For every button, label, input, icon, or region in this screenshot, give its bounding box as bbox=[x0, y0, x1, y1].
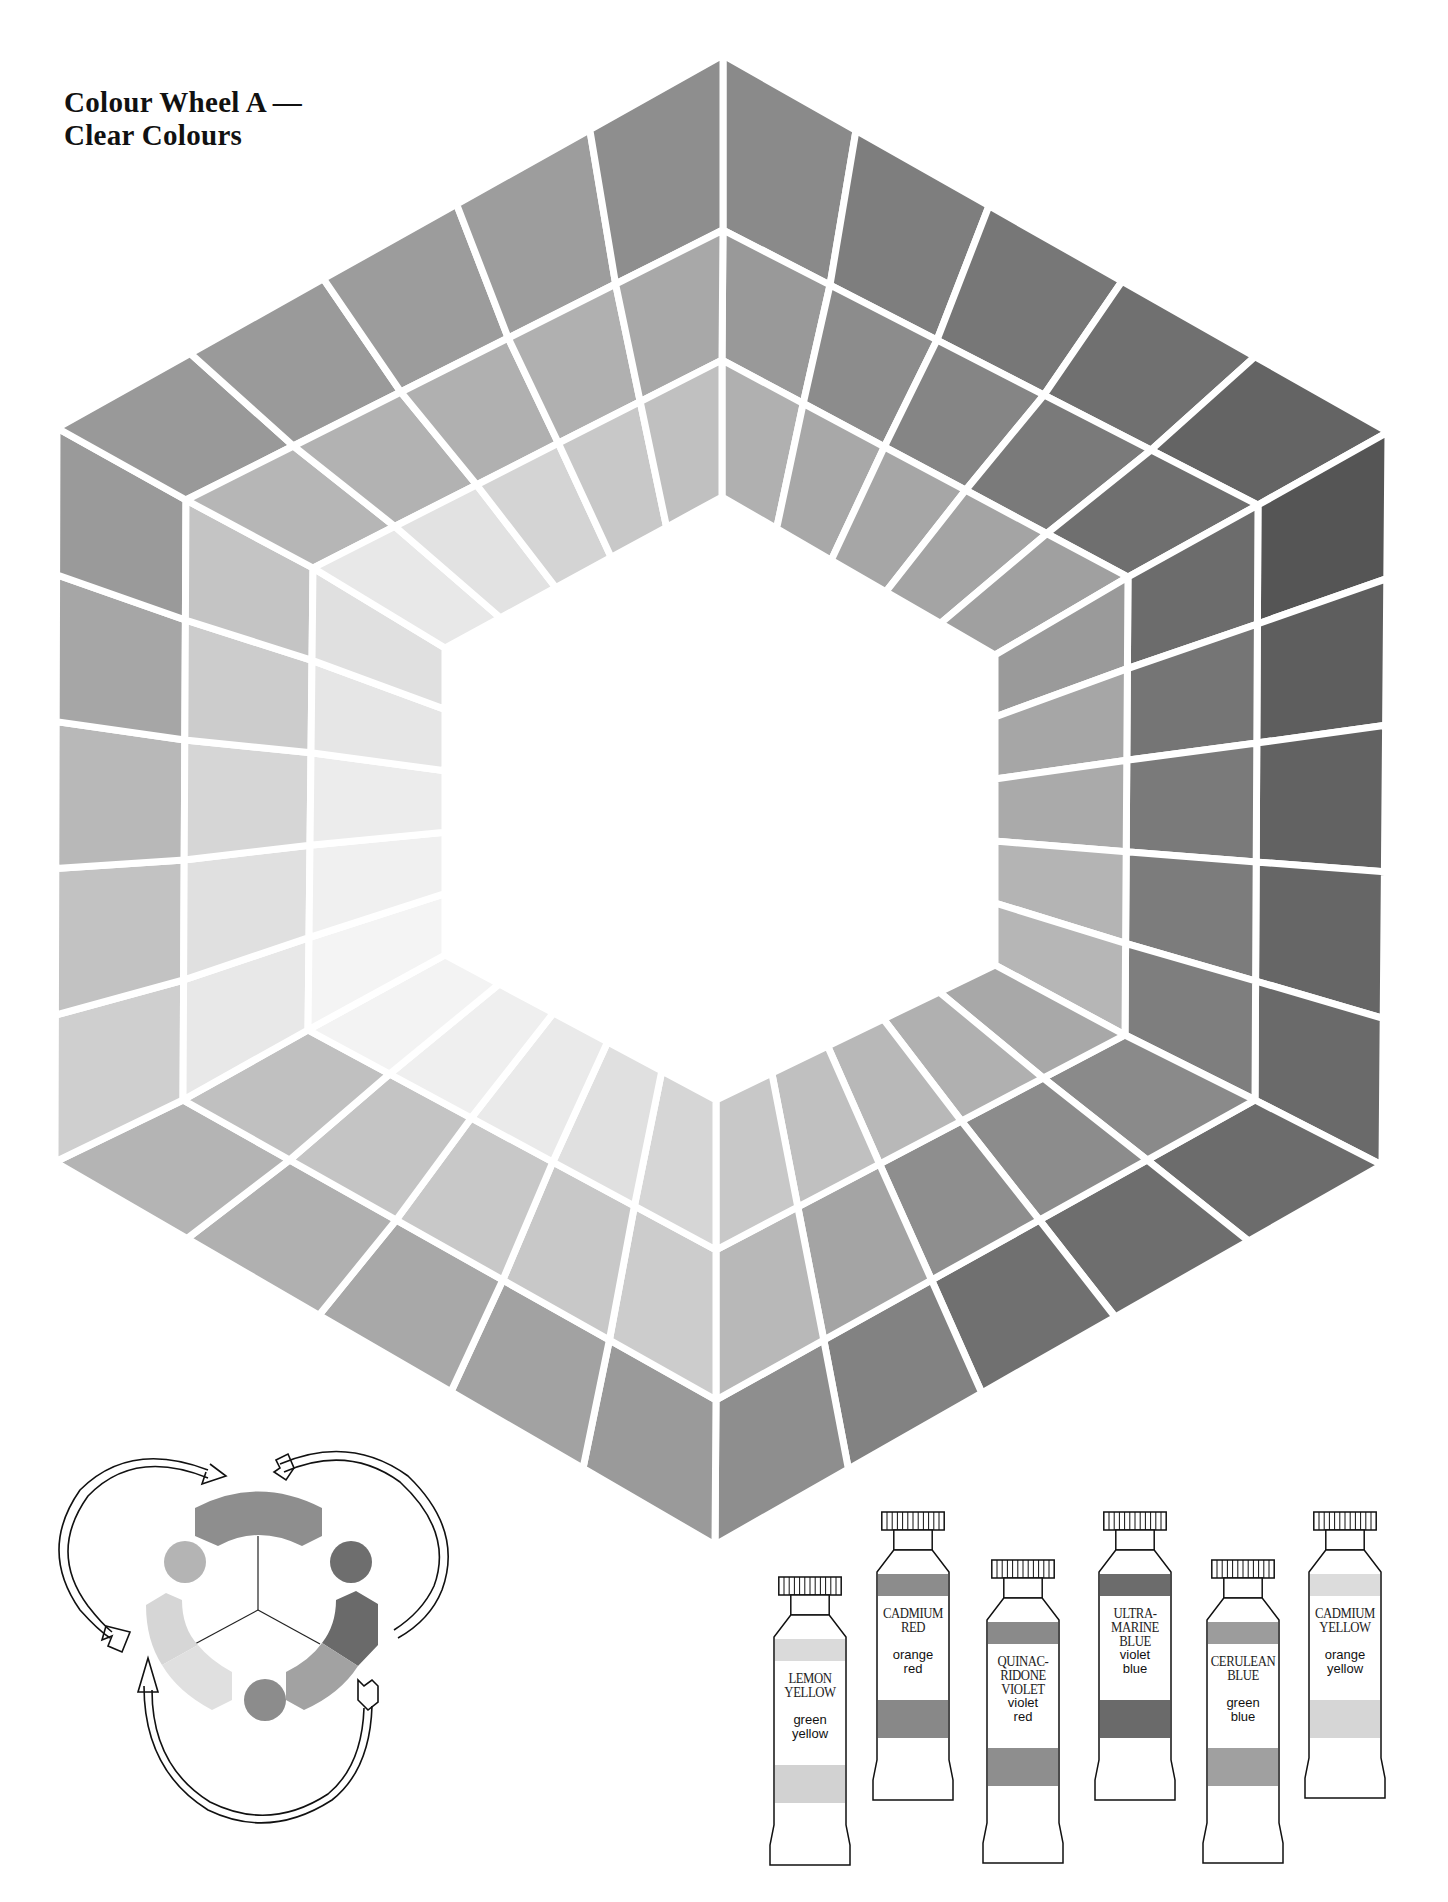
tube-colour-bias: violetblue bbox=[1095, 1648, 1175, 1676]
paint-tube: CERULEANBLUEgreenblue bbox=[1203, 1558, 1283, 1883]
tube-name: ULTRA-MARINEBLUE bbox=[1101, 1606, 1169, 1648]
tube-colour-bias: greenblue bbox=[1203, 1696, 1283, 1724]
tube-colour-bias: orangered bbox=[873, 1648, 953, 1676]
center-divider-lines bbox=[193, 1536, 320, 1645]
dot-bottom bbox=[244, 1679, 286, 1721]
tube-name: QUINAC-RIDONEVIOLET bbox=[989, 1654, 1057, 1696]
paint-tube: QUINAC-RIDONEVIOLETvioletred bbox=[983, 1558, 1063, 1883]
wheel-cell bbox=[56, 722, 185, 869]
paint-tube: CADMIUMREDorangered bbox=[873, 1510, 953, 1820]
tube-name: CADMIUMRED bbox=[879, 1606, 947, 1634]
wheel-cells bbox=[55, 55, 1388, 1545]
wheel-cell bbox=[184, 740, 311, 860]
wheel-cell bbox=[995, 760, 1127, 852]
colour-wheel-hexagon bbox=[0, 0, 1448, 1600]
wheel-cell bbox=[1126, 743, 1257, 862]
colour-cycle-diagram bbox=[40, 1440, 480, 1860]
wheel-cell bbox=[1256, 725, 1385, 872]
dot-upper-left bbox=[164, 1541, 206, 1583]
tube-colour-bias: greenyellow bbox=[770, 1713, 850, 1741]
tube-name: CERULEANBLUE bbox=[1209, 1654, 1277, 1682]
tube-colour-bias: violetred bbox=[983, 1696, 1063, 1724]
tube-colour-bias: orangeyellow bbox=[1305, 1648, 1385, 1676]
paint-tubes: LEMONYELLOWgreenyellow CADMIUMREDoranger… bbox=[760, 1500, 1420, 1880]
paint-tube: LEMONYELLOWgreenyellow bbox=[770, 1575, 850, 1885]
paint-tube: ULTRA-MARINEBLUEvioletblue bbox=[1095, 1510, 1175, 1820]
tube-name: LEMONYELLOW bbox=[776, 1671, 844, 1699]
paint-tube: CADMIUMYELLOWorangeyellow bbox=[1305, 1510, 1385, 1818]
dot-upper-right bbox=[330, 1541, 372, 1583]
tube-name: CADMIUMYELLOW bbox=[1311, 1606, 1379, 1634]
